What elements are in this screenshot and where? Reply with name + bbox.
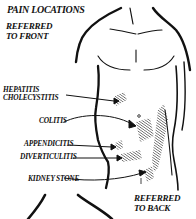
label-kidney-stone: KIDNEY STONE xyxy=(28,175,79,182)
hatch-colon xyxy=(136,118,154,142)
pain-locations-diagram: PAIN LOCATIONS REFERRED TO FRONT HEPATIT… xyxy=(0,0,196,219)
back-caption-line1: REFERRED xyxy=(134,194,180,203)
label-diverticulitis: DIVERTICULITIS xyxy=(20,153,77,160)
label-cholecystitis: CHOLECYSTITIS xyxy=(3,94,58,101)
label-colitis: COLITIS xyxy=(39,117,67,124)
hatch-back xyxy=(152,104,168,172)
hatch-liver xyxy=(115,92,127,106)
front-caption-line1: REFERRED xyxy=(6,22,52,31)
hatch-sigmoid xyxy=(121,150,142,162)
title: PAIN LOCATIONS xyxy=(7,5,85,15)
hatch-kidney xyxy=(144,166,154,182)
back-caption-line2: TO BACK xyxy=(134,204,170,213)
front-caption-line2: TO FRONT xyxy=(6,32,48,41)
label-appendicitis: APPENDICITIS xyxy=(24,140,73,147)
hatch-appendix xyxy=(115,140,123,150)
